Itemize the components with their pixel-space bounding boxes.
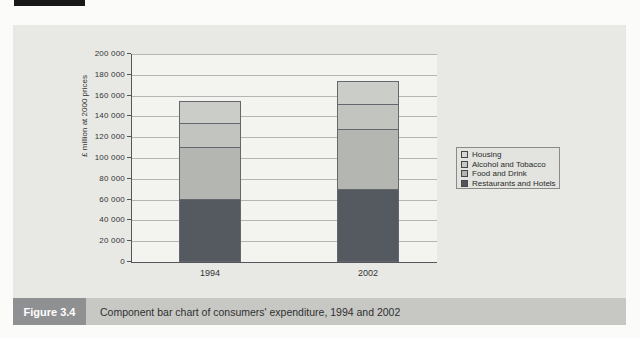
y-tick-label: 60 000 [79, 195, 125, 205]
figure-number-label: Figure 3.4 [13, 298, 86, 325]
legend-item-housing: Housing [461, 150, 559, 160]
bar-segment-1994-restaurants-and-hotels [179, 199, 241, 262]
y-tick-mark [127, 219, 131, 220]
plot-area [131, 54, 437, 263]
y-tick-mark [127, 115, 131, 116]
legend: HousingAlcohol and TobaccoFood and Drink… [456, 147, 560, 189]
bar-segment-1994-housing [179, 101, 241, 124]
x-tick-label-2002: 2002 [337, 268, 399, 278]
y-tick-label: 200 000 [79, 49, 125, 59]
y-tick-mark [127, 261, 131, 262]
y-tick-mark [127, 178, 131, 179]
y-tick-label: 120 000 [79, 132, 125, 142]
y-tick-label: 180 000 [79, 70, 125, 80]
gridline-180000 [132, 75, 437, 76]
y-tick-mark [127, 240, 131, 241]
bar-segment-2002-alcohol-and-tobacco [337, 104, 399, 130]
legend-item-alcohol-and-tobacco: Alcohol and Tobacco [461, 160, 559, 170]
y-tick-label: 80 000 [79, 174, 125, 184]
bar-2002 [337, 82, 399, 262]
figure-caption-text: Component bar chart of consumers' expend… [86, 306, 400, 318]
bar-1994 [179, 102, 241, 262]
y-tick-mark [127, 136, 131, 137]
legend-swatch-icon [461, 170, 468, 177]
y-tick-mark [127, 74, 131, 75]
scanned-figure-page: £ million at 2000 prices HousingAlcohol … [0, 0, 640, 338]
caption-strip: Component bar chart of consumers' expend… [86, 298, 626, 325]
legend-item-food-and-drink: Food and Drink [461, 169, 559, 179]
bar-segment-2002-restaurants-and-hotels [337, 189, 399, 262]
y-tick-label: 160 000 [79, 91, 125, 101]
page-crop-mark [14, 0, 85, 6]
y-tick-label: 0 [79, 257, 125, 267]
legend-swatch-icon [461, 161, 468, 168]
y-tick-label: 140 000 [79, 111, 125, 121]
y-tick-mark [127, 199, 131, 200]
y-tick-mark [127, 53, 131, 54]
legend-label: Housing [472, 150, 501, 159]
bar-segment-1994-food-and-drink [179, 147, 241, 200]
y-tick-label: 40 000 [79, 215, 125, 225]
y-tick-mark [127, 95, 131, 96]
legend-label: Alcohol and Tobacco [472, 160, 546, 169]
y-tick-label: 100 000 [79, 153, 125, 163]
legend-swatch-icon [461, 180, 468, 187]
gridline-200000 [132, 54, 437, 55]
legend-item-restaurants-and-hotels: Restaurants and Hotels [461, 179, 559, 189]
y-tick-label: 20 000 [79, 236, 125, 246]
x-tick-label-1994: 1994 [179, 268, 241, 278]
legend-label: Food and Drink [472, 169, 527, 178]
y-tick-mark [127, 157, 131, 158]
legend-swatch-icon [461, 151, 468, 158]
figure-caption-row: Figure 3.4 Component bar chart of consum… [13, 298, 626, 325]
bar-segment-2002-food-and-drink [337, 129, 399, 190]
bar-segment-2002-housing [337, 81, 399, 105]
legend-label: Restaurants and Hotels [472, 179, 556, 188]
bar-segment-1994-alcohol-and-tobacco [179, 123, 241, 148]
